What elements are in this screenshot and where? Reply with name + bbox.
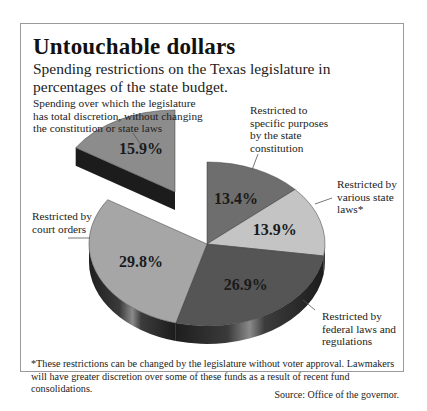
label-court: Restricted by court orders — [32, 210, 92, 235]
slice-value-label: 15.9% — [119, 140, 163, 157]
label-federal: Restricted by federal laws and regulatio… — [322, 310, 412, 348]
slice-value-label: 29.8% — [119, 253, 163, 270]
slice-value-label: 26.9% — [224, 276, 268, 293]
slice-value-label: 13.9% — [253, 221, 297, 238]
slice-value-label: 13.4% — [214, 190, 258, 207]
label-constitution: Restricted to specific purposes by the s… — [250, 104, 332, 154]
label-state-laws: Restricted by various state laws* — [337, 178, 407, 216]
label-discretion: Spending over which the legislature has … — [33, 97, 203, 135]
source-note: Source: Office of the governor. — [275, 389, 400, 400]
